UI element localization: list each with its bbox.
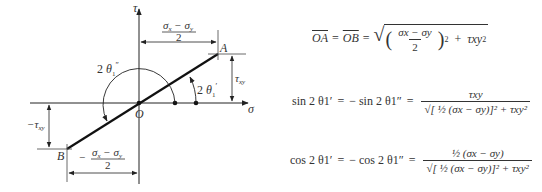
svg-text:τxy: τxy: [235, 72, 246, 86]
eq1-lhs2: OB: [343, 31, 359, 46]
eq3-denominator: [ ½ (σx − σy)]² + τxy²: [433, 162, 529, 174]
angle-arc-prime: [190, 77, 196, 103]
eq1-frac-den: 2: [409, 39, 421, 53]
eq3-lhs: cos 2 θ1′: [290, 153, 332, 168]
sigma-axis-label: σ: [248, 102, 255, 116]
eq2-numerator: τxy: [466, 88, 486, 101]
point-b-label: B: [57, 149, 65, 163]
eq3-numerator: ½ (σx − σy): [449, 147, 507, 160]
origin-point: [137, 101, 142, 106]
eq2-mid: − sin 2 θ1″: [349, 94, 402, 109]
svg-text:2: 2: [105, 159, 111, 171]
origin-label: O: [135, 107, 144, 121]
svg-text:2 θ1″: 2 θ1″: [97, 61, 119, 78]
equation-radius: OA = OB = √ ( σx − σy2 )2 + τxy2: [312, 24, 488, 53]
eq3-mid: − cos 2 θ1″: [349, 153, 404, 168]
svg-text:−τxy: −τxy: [27, 118, 45, 132]
point-a-label: A: [219, 41, 228, 55]
equation-cosine: cos 2 θ1′ = − cos 2 θ1″ = ½ (σx − σy) √[…: [290, 147, 535, 174]
eq1-frac-num: σx − σy: [395, 26, 435, 39]
eq1-lhs1: OA: [312, 31, 328, 46]
equation-sine: sin 2 θ1′ = − sin 2 θ1″ = τxy √[ ½ (σx −…: [292, 88, 533, 115]
eq2-lhs: sin 2 θ1′: [292, 94, 332, 109]
eq1-term2: τxy: [467, 32, 482, 47]
svg-text:2: 2: [176, 31, 182, 43]
svg-text:2 θ1′: 2 θ1′: [197, 82, 217, 99]
svg-text:σx − σy: σx − σy: [92, 146, 123, 160]
svg-text:−: −: [79, 151, 85, 163]
tau-axis-label: τ: [133, 1, 138, 15]
eq2-denominator: [ ½ (σx − σy)]² + τxy²: [431, 103, 527, 115]
